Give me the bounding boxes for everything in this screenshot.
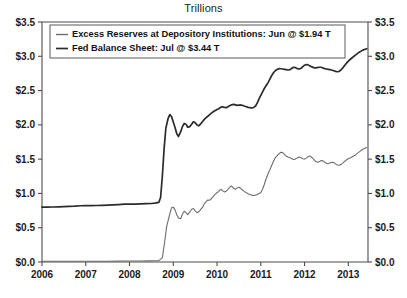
series-line-excess-reserves <box>42 147 367 261</box>
chart-plot-area: $0.0$0.5$1.0$1.5$2.0$2.5$3.0$3.5$0.0$0.5… <box>0 0 407 298</box>
y-tick-label-left: $1.0 <box>16 188 36 199</box>
x-tick-label: 2012 <box>293 269 316 280</box>
y-tick-label-right: $3.0 <box>375 51 395 62</box>
y-tick-label-right: $0.0 <box>375 257 395 268</box>
x-tick-label: 2008 <box>118 269 141 280</box>
y-tick-label-right: $2.5 <box>375 85 395 96</box>
y-tick-label-left: $0.5 <box>16 222 36 233</box>
y-tick-label-right: $2.0 <box>375 119 395 130</box>
y-tick-label-left: $0.0 <box>16 257 36 268</box>
y-tick-label-right: $1.5 <box>375 154 395 165</box>
series-group <box>42 49 367 262</box>
chart-figure: Trillions $0.0$0.5$1.0$1.5$2.0$2.5$3.0$3… <box>0 0 407 298</box>
x-tick-label: 2009 <box>162 269 185 280</box>
y-tick-label-right: $3.5 <box>375 17 395 28</box>
y-tick-label-right: $1.0 <box>375 188 395 199</box>
y-tick-label-left: $1.5 <box>16 154 36 165</box>
legend-label-excess-reserves: Excess Reserves at Depository Institutio… <box>72 29 331 39</box>
y-tick-label-left: $3.0 <box>16 51 36 62</box>
x-tick-label: 2007 <box>75 269 98 280</box>
chart-legend: Excess Reserves at Depository Institutio… <box>50 25 345 58</box>
series-line-fed-balance-sheet <box>42 49 367 207</box>
y-tick-label-left: $3.5 <box>16 17 36 28</box>
y-tick-label-left: $2.5 <box>16 85 36 96</box>
x-tick-label: 2006 <box>31 269 54 280</box>
x-tick-label: 2013 <box>337 269 360 280</box>
x-tick-label: 2010 <box>206 269 229 280</box>
y-tick-label-right: $0.5 <box>375 222 395 233</box>
y-tick-label-left: $2.0 <box>16 119 36 130</box>
legend-label-fed-balance-sheet: Fed Balance Sheet: Jul @ $3.44 T <box>72 43 220 53</box>
x-tick-label: 2011 <box>250 269 272 280</box>
